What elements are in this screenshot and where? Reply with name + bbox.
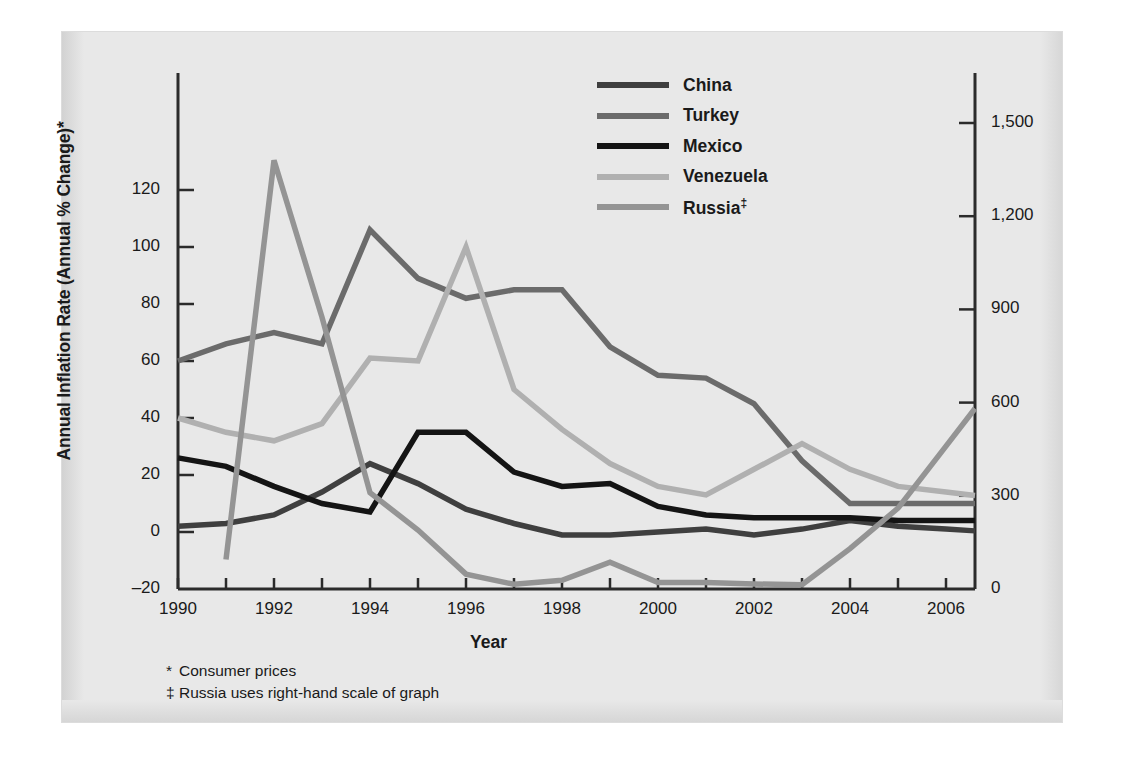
chart-legend: ChinaTurkeyMexicoVenezuelaRussia‡ xyxy=(597,70,768,223)
y-axis-title: Annual Inflation Rate (Annual % Change)* xyxy=(54,161,75,461)
legend-swatch-mexico xyxy=(597,143,669,149)
y-left-tick-label: 0 xyxy=(100,521,160,541)
x-tick-label: 1994 xyxy=(335,599,405,619)
legend-label: China xyxy=(683,75,732,96)
series-layer xyxy=(178,160,975,584)
y-left-tick-label: 100 xyxy=(100,236,160,256)
chart-page: –20020406080100120 03006009001,2001,500 … xyxy=(0,0,1122,773)
legend-label: Turkey xyxy=(683,105,739,126)
legend-swatch-china xyxy=(597,82,669,88)
footnote-1: *Consumer prices xyxy=(166,660,439,682)
x-tick-label: 2002 xyxy=(719,599,789,619)
legend-label: Mexico xyxy=(683,136,742,157)
legend-swatch-venezuela xyxy=(597,174,669,180)
y-left-tick-label: 80 xyxy=(100,293,160,313)
series-line-venezuela xyxy=(178,247,975,496)
x-tick-label: 1992 xyxy=(239,599,309,619)
x-tick-label: 2004 xyxy=(815,599,885,619)
y-right-tick-label: 900 xyxy=(991,298,1061,318)
y-left-tick-label: –20 xyxy=(100,578,160,598)
x-tick-label: 1990 xyxy=(143,599,213,619)
series-line-china xyxy=(178,464,975,535)
legend-item-mexico[interactable]: Mexico xyxy=(597,131,768,162)
legend-item-china[interactable]: China xyxy=(597,70,768,101)
x-tick-label: 1998 xyxy=(527,599,597,619)
footnote-2: ‡Russia uses right-hand scale of graph xyxy=(166,682,439,704)
footnote-text: Consumer prices xyxy=(179,662,296,679)
x-tick-label: 2006 xyxy=(911,599,981,619)
legend-swatch-turkey xyxy=(597,113,669,119)
legend-footnote-marker: ‡ xyxy=(740,196,747,210)
legend-label: Russia‡ xyxy=(683,196,747,219)
y-left-tick-label: 120 xyxy=(100,179,160,199)
y-left-tick-label: 60 xyxy=(100,350,160,370)
legend-item-venezuela[interactable]: Venezuela xyxy=(597,162,768,193)
x-axis-title: Year xyxy=(470,632,507,653)
legend-swatch-russia xyxy=(597,204,669,210)
y-left-tick-label: 20 xyxy=(100,464,160,484)
axes-layer xyxy=(178,73,975,589)
legend-item-turkey[interactable]: Turkey xyxy=(597,101,768,132)
y-right-tick-label: 1,200 xyxy=(991,205,1061,225)
x-tick-label: 1996 xyxy=(431,599,501,619)
y-right-tick-label: 1,500 xyxy=(991,112,1061,132)
y-right-tick-label: 300 xyxy=(991,485,1061,505)
series-line-mexico xyxy=(178,432,975,520)
y-right-tick-label: 0 xyxy=(991,578,1061,598)
footnote-marker: * xyxy=(166,660,179,682)
y-left-tick-label: 40 xyxy=(100,407,160,427)
y-right-tick-label: 600 xyxy=(991,392,1061,412)
legend-label: Venezuela xyxy=(683,166,768,187)
inflation-line-chart: –20020406080100120 03006009001,2001,500 … xyxy=(0,0,1122,773)
footnote-marker: ‡ xyxy=(166,682,179,704)
plot-canvas xyxy=(0,0,1122,773)
chart-footnotes: *Consumer prices‡Russia uses right-hand … xyxy=(166,660,439,705)
legend-item-russia[interactable]: Russia‡ xyxy=(597,192,768,223)
series-line-turkey xyxy=(178,230,975,504)
x-tick-label: 2000 xyxy=(623,599,693,619)
footnote-text: Russia uses right-hand scale of graph xyxy=(179,684,439,701)
